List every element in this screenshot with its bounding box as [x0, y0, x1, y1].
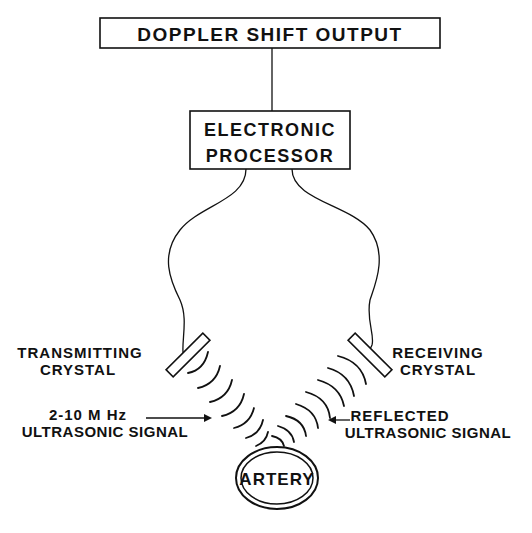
reflected-signal-label-line2: ULTRASONIC SIGNAL [345, 424, 512, 441]
reflected-signal-label-line1: REFLECTED [351, 407, 450, 424]
artery-vessel: ARTERY [236, 447, 318, 509]
transmitting-crystal-label-line2: CRYSTAL [40, 361, 116, 378]
receiving-crystal-label-line2: CRYSTAL [400, 361, 476, 378]
transmitted-wave-icon [188, 352, 268, 446]
receiving-crystal [348, 333, 392, 377]
transmitting-crystal-label-line1: TRANSMITTING [17, 344, 142, 361]
electronic-processor-box: ELECTRONIC PROCESSOR [190, 111, 350, 169]
reflected-arrow-icon [328, 416, 350, 424]
transmitting-crystal [166, 333, 210, 377]
receiver-wire [292, 169, 379, 353]
artery-label: ARTERY [239, 470, 314, 489]
receiving-crystal-label-line1: RECEIVING [392, 344, 484, 361]
processor-label-line2: PROCESSOR [206, 146, 335, 166]
incident-arrow-icon [146, 414, 212, 422]
doppler-shift-output-label: DOPPLER SHIFT OUTPUT [137, 24, 402, 45]
doppler-shift-output-box: DOPPLER SHIFT OUTPUT [100, 18, 440, 48]
incident-signal-label-line2: ULTRASONIC SIGNAL [22, 423, 189, 440]
incident-signal-label-line1: 2-10 M Hz [49, 406, 127, 423]
transmitter-wire [168, 169, 246, 357]
doppler-diagram: DOPPLER SHIFT OUTPUT ELECTRONIC PROCESSO… [0, 0, 532, 533]
processor-label-line1: ELECTRONIC [204, 120, 336, 140]
